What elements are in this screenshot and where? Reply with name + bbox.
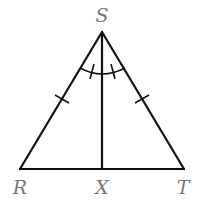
side-tick-ST xyxy=(135,95,149,103)
triangle-diagram: S R X T xyxy=(0,0,197,201)
label-T: T xyxy=(177,176,191,198)
label-R: R xyxy=(12,176,27,198)
label-S: S xyxy=(95,4,108,26)
side-ST xyxy=(102,32,184,169)
side-tick-SR xyxy=(55,95,69,103)
side-SR xyxy=(20,32,102,169)
label-X: X xyxy=(93,176,110,198)
angle-tick-left xyxy=(90,64,94,79)
